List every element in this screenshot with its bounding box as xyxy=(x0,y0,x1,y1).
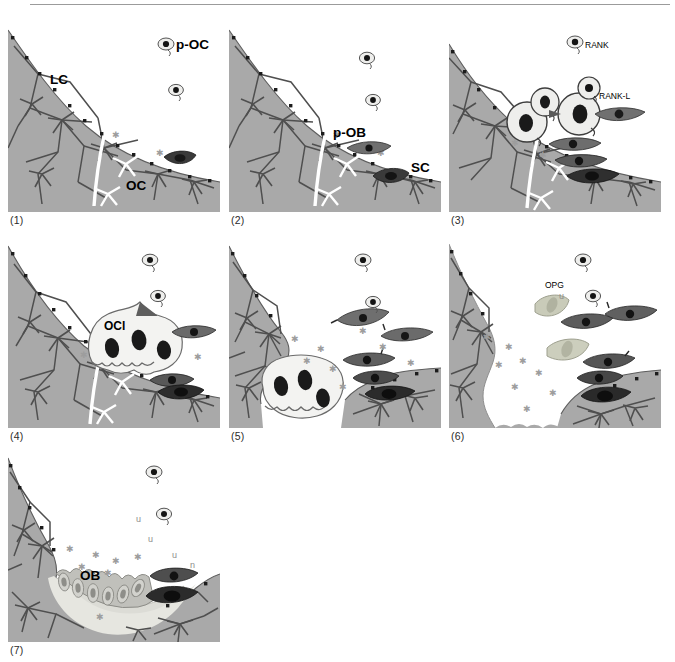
svg-text:✱: ✱ xyxy=(495,360,503,370)
secreted-factor-mark: u xyxy=(136,514,141,524)
svg-text:✱: ✱ xyxy=(339,382,347,392)
panel-1: ✱ ✱ xyxy=(8,22,220,212)
svg-text:✱: ✱ xyxy=(505,342,513,352)
svg-text:✱: ✱ xyxy=(194,352,202,362)
svg-text:✱: ✱ xyxy=(134,552,142,562)
panel-7-caption: (7) xyxy=(10,644,23,656)
label-rank: RANK xyxy=(585,40,609,50)
svg-text:✱: ✱ xyxy=(104,568,112,578)
panel-1-caption: (1) xyxy=(10,214,23,226)
svg-text:✱: ✱ xyxy=(511,382,519,392)
svg-text:✱: ✱ xyxy=(329,364,337,374)
secreted-factor-mark: n xyxy=(190,560,195,570)
bone-remodelling-figure: ✱ ✱ xyxy=(0,0,675,662)
panel-7: ✱✱ ✱✱ ✱✱ ✱ u u u n xyxy=(8,452,220,642)
panel-2-caption: (2) xyxy=(231,214,244,226)
secreted-factor-mark: u xyxy=(148,534,153,544)
panel-6: ✱✱ ✱✱ ✱✱ ✱✱ OPG u xyxy=(449,238,661,428)
svg-text:✱: ✱ xyxy=(483,332,491,342)
label-ocl: OCl xyxy=(104,319,125,333)
secreted-factor-mark: u xyxy=(172,550,177,560)
panel-4-caption: (4) xyxy=(10,430,23,442)
panel-4: ✱✱ OCl xyxy=(8,238,220,428)
panel-5-caption: (5) xyxy=(231,430,244,442)
panel-2: ✱✱ xyxy=(229,22,441,212)
svg-text:✱: ✱ xyxy=(112,556,120,566)
svg-text:✱: ✱ xyxy=(156,148,164,158)
secreted-factor-mark: u xyxy=(559,291,564,301)
label-oc: OC xyxy=(126,178,147,193)
panel-3: ✱✱ ✱ xyxy=(449,22,661,212)
label-opg: OPG xyxy=(545,280,564,290)
label-p-oc: p-OC xyxy=(176,37,209,52)
label-lc: LC xyxy=(50,72,68,87)
panel-3-caption: (3) xyxy=(451,214,464,226)
label-rank-l: RANK-L xyxy=(599,91,630,101)
svg-text:✱: ✱ xyxy=(523,404,531,414)
svg-text:✱: ✱ xyxy=(80,350,88,360)
label-ob: OB xyxy=(80,568,101,583)
svg-text:✱: ✱ xyxy=(66,544,74,554)
svg-text:✱: ✱ xyxy=(317,344,325,354)
panel-6-caption: (6) xyxy=(451,430,464,442)
label-p-ob: p-OB xyxy=(333,125,366,140)
label-sc: SC xyxy=(411,160,430,175)
svg-text:✱: ✱ xyxy=(407,358,415,368)
svg-text:✱: ✱ xyxy=(359,326,367,336)
svg-text:✱: ✱ xyxy=(519,356,527,366)
svg-text:✱: ✱ xyxy=(549,388,557,398)
svg-text:✱: ✱ xyxy=(539,150,547,160)
svg-text:✱: ✱ xyxy=(92,550,100,560)
svg-text:✱: ✱ xyxy=(291,334,299,344)
panel-5: ✱✱ ✱✱ ✱✱ ✱✱ xyxy=(229,238,441,428)
svg-text:✱: ✱ xyxy=(535,368,543,378)
svg-text:✱: ✱ xyxy=(303,356,311,366)
svg-text:✱: ✱ xyxy=(96,612,104,622)
svg-text:✱: ✱ xyxy=(379,342,387,352)
svg-text:✱: ✱ xyxy=(112,130,120,140)
